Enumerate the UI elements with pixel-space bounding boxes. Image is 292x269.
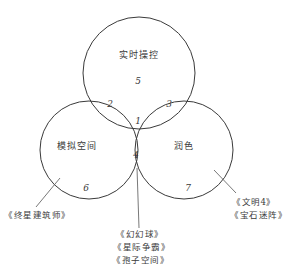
circle-top: [83, 17, 195, 129]
region-number-5: 5: [135, 76, 141, 86]
example-center-1: 《幻幻球》: [116, 227, 164, 239]
example-center-2: 《星际争霸》: [113, 240, 170, 252]
region-number-6: 6: [83, 183, 89, 193]
example-right-2: 《宝石迷阵》: [230, 208, 287, 220]
region-number-2: 2: [107, 99, 113, 109]
example-center-3: 《孢子空间》: [112, 253, 169, 265]
pointer-line-center: [137, 168, 139, 228]
region-number-1: 1: [135, 116, 141, 126]
region-number-7: 7: [185, 183, 191, 193]
pointer-line-left: [36, 178, 60, 207]
region-number-4: 4: [133, 150, 139, 160]
region-number-3: 3: [166, 99, 172, 109]
set-label-left: 模拟空间: [57, 139, 97, 152]
set-label-top: 实时操控: [119, 48, 159, 61]
example-left-1: 《终星建筑师》: [4, 208, 71, 220]
example-right-1: 《文明4》: [232, 195, 276, 207]
pointer-line-right: [214, 170, 236, 193]
set-label-right: 润色: [174, 139, 194, 152]
